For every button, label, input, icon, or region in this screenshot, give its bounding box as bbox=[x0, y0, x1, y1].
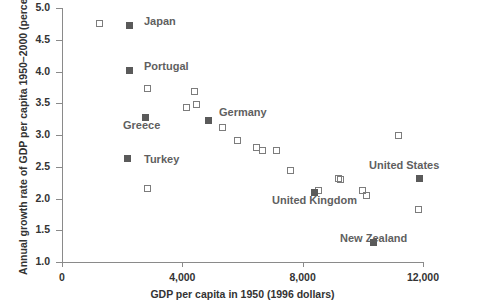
y-tick bbox=[56, 8, 62, 9]
point-label: Japan bbox=[144, 15, 176, 27]
data-point bbox=[219, 124, 226, 131]
data-point bbox=[337, 176, 344, 183]
point-label: United Kingdom bbox=[272, 194, 357, 206]
y-tick bbox=[56, 167, 62, 168]
y-tick bbox=[56, 262, 62, 263]
data-point bbox=[395, 132, 402, 139]
data-point-labeled bbox=[124, 155, 131, 162]
y-tick bbox=[56, 230, 62, 231]
point-label: Portugal bbox=[144, 60, 189, 72]
scatter-chart: 04,0008,00012,000 1.01.52.02.53.03.54.04… bbox=[0, 0, 486, 307]
data-point bbox=[287, 167, 294, 174]
data-point bbox=[259, 147, 266, 154]
x-tick-label: 8,000 bbox=[273, 271, 333, 283]
x-tick bbox=[423, 262, 424, 267]
x-axis-label: GDP per capita in 1950 (1996 dollars) bbox=[62, 288, 423, 300]
point-label: Greece bbox=[123, 119, 160, 131]
data-point-labeled bbox=[205, 117, 212, 124]
data-point bbox=[183, 104, 190, 111]
x-axis-line bbox=[62, 262, 423, 263]
y-tick bbox=[56, 135, 62, 136]
y-tick bbox=[56, 72, 62, 73]
data-point bbox=[415, 206, 422, 213]
data-point bbox=[144, 185, 151, 192]
y-tick bbox=[56, 40, 62, 41]
x-tick bbox=[182, 262, 183, 267]
y-tick bbox=[56, 103, 62, 104]
y-axis-label: Annual growth rate of GDP per capita 195… bbox=[17, 0, 29, 275]
point-label: Germany bbox=[219, 106, 267, 118]
data-point bbox=[234, 137, 241, 144]
data-point bbox=[363, 192, 370, 199]
point-label: New Zealand bbox=[340, 232, 407, 244]
x-tick-label: 4,000 bbox=[152, 271, 212, 283]
data-point bbox=[144, 85, 151, 92]
data-point-labeled bbox=[416, 175, 423, 182]
x-tick-label: 12,000 bbox=[393, 271, 453, 283]
x-tick-label: 0 bbox=[32, 271, 92, 283]
point-label: United States bbox=[369, 159, 439, 171]
data-point bbox=[191, 88, 198, 95]
data-point bbox=[273, 147, 280, 154]
y-axis-line bbox=[62, 8, 63, 262]
point-label: Turkey bbox=[144, 153, 179, 165]
data-point bbox=[193, 101, 200, 108]
x-tick bbox=[62, 262, 63, 267]
data-point-labeled bbox=[126, 22, 133, 29]
x-tick bbox=[303, 262, 304, 267]
data-point bbox=[96, 20, 103, 27]
y-tick bbox=[56, 199, 62, 200]
data-point-labeled bbox=[126, 67, 133, 74]
